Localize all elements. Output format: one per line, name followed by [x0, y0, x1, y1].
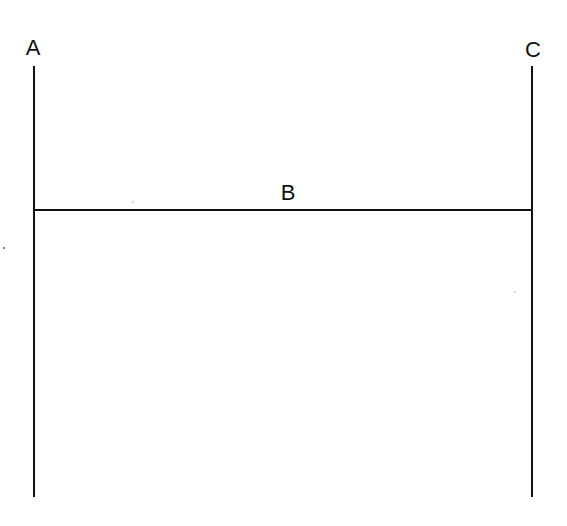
- speck-mark: [514, 291, 515, 292]
- speck-mark: [3, 247, 5, 249]
- speck-mark: [132, 201, 133, 202]
- label-c: C: [525, 39, 541, 61]
- h-frame-diagram: A B C: [0, 0, 567, 526]
- label-b: B: [281, 182, 296, 204]
- diagram-canvas: [0, 0, 567, 526]
- label-a: A: [26, 37, 41, 59]
